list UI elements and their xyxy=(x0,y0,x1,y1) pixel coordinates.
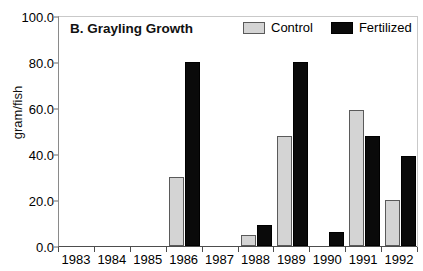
bar-fertilized-1989 xyxy=(293,62,308,246)
plot-area xyxy=(58,17,417,247)
chart-title: B. Grayling Growth xyxy=(70,21,193,36)
y-axis-tick-label: 80.0 xyxy=(10,56,54,71)
y-axis-tick-label: 100.0 xyxy=(10,10,54,25)
legend-label-fertilized: Fertilized xyxy=(359,20,412,35)
legend-item-fertilized: Fertilized xyxy=(331,20,412,35)
legend-item-control: Control xyxy=(243,20,313,35)
plot-frame-right xyxy=(417,16,418,247)
bar-control-1992 xyxy=(385,200,400,246)
x-axis-tick-label-1990: 1990 xyxy=(307,252,347,267)
bar-fertilized-1988 xyxy=(257,225,272,246)
x-axis-tick-label-1989: 1989 xyxy=(271,252,311,267)
x-axis-tick-label-1986: 1986 xyxy=(164,252,204,267)
legend-label-control: Control xyxy=(271,20,313,35)
bar-fertilized-1991 xyxy=(365,136,380,246)
y-axis-tick-label: 20.0 xyxy=(10,194,54,209)
x-axis-tick-label-1991: 1991 xyxy=(343,252,383,267)
legend-swatch-control-icon xyxy=(243,22,265,34)
x-axis-tick-label-1983: 1983 xyxy=(56,252,96,267)
legend-swatch-fertilized-icon xyxy=(331,22,353,34)
y-axis-tick-label: 60.0 xyxy=(10,102,54,117)
bar-fertilized-1986 xyxy=(185,62,200,246)
bar-control-1989 xyxy=(277,136,292,246)
y-axis-tick-label: 0.0 xyxy=(10,240,54,255)
bar-fertilized-1990 xyxy=(329,232,344,246)
chart-legend: Control Fertilized xyxy=(243,20,412,35)
y-axis-tick-label: 40.0 xyxy=(10,148,54,163)
bar-control-1991 xyxy=(349,110,364,246)
x-axis-tick-label-1985: 1985 xyxy=(128,252,168,267)
bar-control-1988 xyxy=(241,235,256,247)
x-axis-tick-label-1988: 1988 xyxy=(235,252,275,267)
bar-fertilized-1992 xyxy=(401,156,416,246)
x-axis-tick-label-1984: 1984 xyxy=(92,252,132,267)
x-axis-tick-label-1987: 1987 xyxy=(200,252,240,267)
x-axis-tick-label-1992: 1992 xyxy=(379,252,419,267)
chart-figure: gram/fish 0.020.040.060.080.0100.0 19831… xyxy=(0,0,423,271)
bar-control-1986 xyxy=(169,177,184,246)
y-axis-tick-labels: 0.020.040.060.080.0100.0 xyxy=(8,0,54,271)
